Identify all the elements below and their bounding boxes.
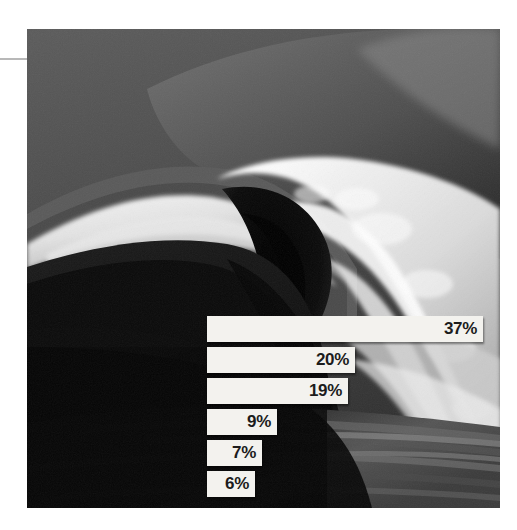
bar-value: 37% (444, 319, 477, 339)
horizontal-bar-chart: Personal watercraft riding 37% Surfing 2… (0, 0, 517, 530)
bar: 37% (207, 316, 483, 342)
bar-value: 19% (309, 381, 342, 401)
bar-value: 7% (232, 443, 256, 463)
bar: 7% (207, 440, 262, 466)
bar: 19% (207, 378, 348, 404)
bar: 20% (207, 347, 355, 373)
bar-value: 9% (247, 412, 271, 432)
bar-value: 6% (225, 474, 249, 494)
bar: 6% (207, 471, 255, 497)
bar: 9% (207, 409, 277, 435)
bar-value: 20% (316, 350, 349, 370)
